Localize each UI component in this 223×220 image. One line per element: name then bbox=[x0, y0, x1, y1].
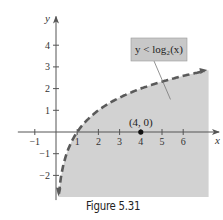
x-tick-label: 6 bbox=[181, 136, 186, 147]
x-tick-label: 3 bbox=[117, 136, 122, 147]
y-tick-label: 2 bbox=[45, 83, 50, 94]
x-tick-label: 1 bbox=[75, 136, 80, 147]
shaded-region bbox=[59, 70, 209, 197]
figure-caption: Figure 5.31 bbox=[86, 199, 140, 213]
callout-text: y < log₂(x) bbox=[135, 43, 183, 56]
y-tick-label: −1 bbox=[39, 148, 50, 159]
x-axis-label: x bbox=[214, 134, 220, 146]
y-axis-label: y bbox=[44, 12, 50, 24]
x-tick-label: 2 bbox=[96, 136, 101, 147]
x-tick-label: −1 bbox=[29, 136, 40, 147]
y-tick-label: 4 bbox=[45, 40, 50, 51]
point-label: (4, 0) bbox=[129, 116, 153, 129]
y-tick-label: 1 bbox=[45, 105, 50, 116]
point-marker bbox=[138, 129, 143, 134]
x-tick-label: 4 bbox=[138, 136, 143, 147]
y-tick-label: −2 bbox=[39, 170, 50, 181]
y-tick-label: 3 bbox=[45, 61, 50, 72]
x-tick-label: 5 bbox=[160, 136, 165, 147]
log-inequality-graph: xy −1123456−2−11234 y < log₂(x)(4, 0) bbox=[0, 0, 223, 220]
